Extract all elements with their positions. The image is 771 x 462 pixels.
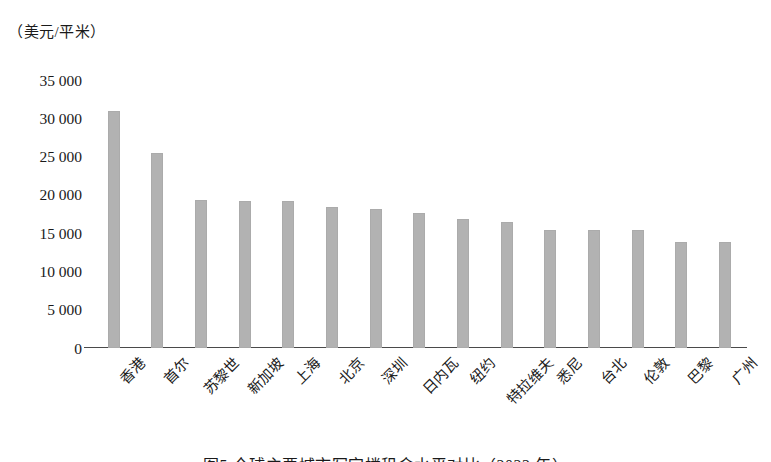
- bar: [370, 209, 382, 348]
- x-axis-category-labels: 香港首尔苏黎世新加坡上海北京深圳日内瓦纽约特拉维夫悉尼台北伦敦巴黎广州: [92, 352, 747, 430]
- plot-area: 35 00030 00025 00020 00015 00010 0005 00…: [92, 80, 747, 348]
- bar-slot: [310, 80, 354, 348]
- y-axis-tick-20000: 20 000: [39, 187, 82, 203]
- bar: [719, 242, 731, 348]
- x-label-slot: 上海: [267, 352, 311, 373]
- bar: [413, 213, 425, 348]
- x-label-slot: 北京: [310, 352, 354, 373]
- y-axis-tick-10000: 10 000: [39, 264, 82, 280]
- bar-slot: [616, 80, 660, 348]
- bar-slot: [179, 80, 223, 348]
- bar: [195, 200, 207, 348]
- x-axis-label: 广州: [725, 352, 760, 387]
- x-label-slot: 广州: [703, 352, 747, 373]
- bar-slot: [441, 80, 485, 348]
- y-axis-tick-35000: 35 000: [39, 72, 82, 88]
- y-axis-unit-label: （美元/平米）: [8, 20, 106, 41]
- bar-chart-figure: （美元/平米） 35 00030 00025 00020 00015 00010…: [0, 0, 771, 462]
- bar-series: [92, 80, 747, 348]
- bar: [675, 242, 687, 348]
- bar: [108, 111, 120, 348]
- x-label-slot: 新加坡: [223, 352, 267, 373]
- bar-slot: [485, 80, 529, 348]
- bar-slot: [660, 80, 704, 348]
- x-label-slot: 特拉维夫: [485, 352, 529, 373]
- x-label-slot: 纽约: [441, 352, 485, 373]
- bar: [326, 207, 338, 348]
- bar: [239, 201, 251, 348]
- x-label-slot: 日内瓦: [398, 352, 442, 373]
- bar-slot: [572, 80, 616, 348]
- bar-slot: [223, 80, 267, 348]
- x-label-slot: 巴黎: [660, 352, 704, 373]
- y-axis-tick-0: 0: [74, 340, 82, 356]
- bar-slot: [529, 80, 573, 348]
- bar: [282, 201, 294, 348]
- y-axis-tick-30000: 30 000: [39, 111, 82, 127]
- x-label-slot: 首尔: [136, 352, 180, 373]
- bar: [588, 230, 600, 348]
- y-axis-tick-15000: 15 000: [39, 225, 82, 241]
- bar: [151, 153, 163, 348]
- bar-slot: [136, 80, 180, 348]
- bar-slot: [267, 80, 311, 348]
- bar-slot: [398, 80, 442, 348]
- bar-slot: [92, 80, 136, 348]
- bar: [501, 222, 513, 348]
- x-label-slot: 台北: [572, 352, 616, 373]
- x-label-slot: 悉尼: [529, 352, 573, 373]
- y-axis-tick-25000: 25 000: [39, 149, 82, 165]
- bar-slot: [354, 80, 398, 348]
- bar: [457, 219, 469, 348]
- y-axis-tick-5000: 5 000: [47, 302, 82, 318]
- bar: [632, 230, 644, 348]
- bar: [544, 230, 556, 348]
- figure-caption: 图5 全球主要城市写字楼租金水平对比（2022 年）: [0, 452, 771, 462]
- x-label-slot: 伦敦: [616, 352, 660, 373]
- figure-caption-clipped: 图5 全球主要城市写字楼租金水平对比（2022 年）: [0, 452, 771, 462]
- x-label-slot: 香港: [92, 352, 136, 373]
- x-label-slot: 深圳: [354, 352, 398, 373]
- bar-slot: [703, 80, 747, 348]
- x-label-slot: 苏黎世: [179, 352, 223, 373]
